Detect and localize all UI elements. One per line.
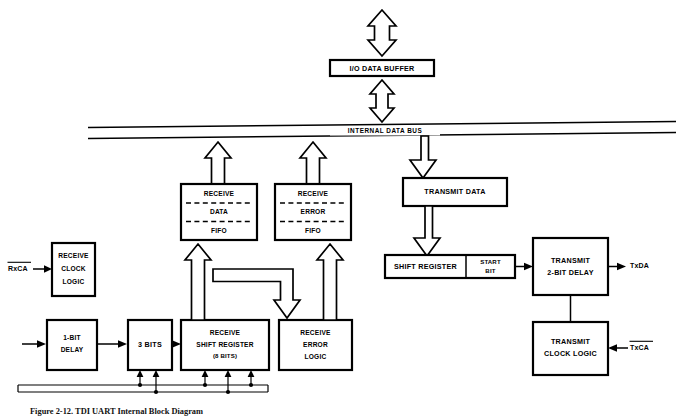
block-receive-error-logic: RECEIVE ERROR LOGIC	[279, 320, 352, 370]
block-receive-shift-register: RECEIVE SHIFT REGISTER (8 BITS)	[181, 320, 269, 370]
receive-shift-register-line2: SHIFT REGISTER	[196, 341, 253, 348]
receive-data-input-arrow	[22, 340, 46, 348]
pin-txda: TxDA	[608, 262, 649, 270]
error-logic-to-error-fifo-arrow	[317, 244, 343, 320]
receive-error-logic-line1: RECEIVE	[300, 329, 331, 336]
transmit-data-to-shift-register-arrow	[414, 206, 440, 256]
block-transmit-data: TRANSMIT DATA	[403, 178, 507, 206]
receive-shift-register-line3: (8 BITS)	[213, 352, 237, 359]
block-receive-data-fifo: RECEIVE DATA FIFO	[181, 184, 257, 240]
receive-clock-logic-line1: RECEIVE	[58, 252, 89, 259]
transmit-data-label: TRANSMIT DATA	[424, 187, 485, 196]
block-three-bits: 3 BITS	[128, 320, 172, 370]
receive-error-fifo-line3: FIFO	[305, 227, 321, 234]
shift-register-to-error-logic-arrow	[213, 269, 300, 318]
start-bit-line2: BIT	[485, 267, 495, 274]
delay-to-3bits-wire	[97, 340, 127, 348]
internal-data-bus: INTERNAL DATA BUS	[88, 122, 676, 139]
rxca-arrowhead	[44, 265, 52, 273]
receive-error-logic-line2: ERROR	[303, 341, 328, 348]
receive-data-fifo-line2: DATA	[210, 208, 228, 215]
shift-register-label: SHIFT REGISTER	[394, 262, 458, 271]
block-diagram-canvas: I/O DATA BUFFER INTERNAL DATA BUS RECEIV…	[0, 0, 676, 416]
io-buffer-to-bus-arrow	[370, 80, 394, 122]
block-transmit-clock-logic: TRANSMIT CLOCK LOGIC	[533, 322, 608, 375]
transmit-clock-logic-line2: CLOCK LOGIC	[544, 349, 597, 358]
txda-label: TxDA	[630, 262, 649, 269]
receive-clock-logic-line3: LOGIC	[63, 278, 85, 285]
block-one-bit-delay: 1-BIT DELAY	[47, 320, 97, 370]
rxca-label: RxCA	[8, 265, 28, 272]
pin-txca: TxCA	[608, 341, 653, 352]
bus-to-transmit-data-arrow	[410, 136, 436, 178]
receive-error-logic-line3: LOGIC	[305, 353, 327, 360]
io-data-buffer-label: I/O DATA BUFFER	[349, 64, 415, 73]
receive-data-fifo-to-bus-arrow	[205, 142, 231, 184]
start-bit-line1: START	[480, 258, 501, 265]
one-bit-delay-line2: DELAY	[61, 346, 84, 353]
receive-data-fifo-line1: RECEIVE	[204, 190, 235, 197]
receive-error-fifo-to-bus-arrow	[300, 142, 326, 184]
shift-register-to-delay-wire	[515, 263, 533, 271]
external-bus-arrow-top	[368, 10, 396, 56]
receive-shift-register-line1: RECEIVE	[210, 329, 241, 336]
one-bit-delay-line1: 1-BIT	[63, 334, 80, 341]
shift-register-to-data-fifo-arrow	[185, 244, 211, 320]
receive-clock-feedback-bus	[18, 370, 268, 394]
internal-data-bus-label: INTERNAL DATA BUS	[348, 127, 423, 134]
transmit-2bit-delay-line1: TRANSMIT	[551, 256, 590, 265]
uart-block-diagram: I/O DATA BUFFER INTERNAL DATA BUS RECEIV…	[0, 0, 676, 416]
receive-error-fifo-line2: ERROR	[301, 208, 326, 215]
transmit-clock-logic-line1: TRANSMIT	[551, 337, 590, 346]
block-transmit-shift-register: SHIFT REGISTER START BIT	[385, 255, 515, 278]
block-io-data-buffer: I/O DATA BUFFER	[330, 60, 434, 76]
transmit-2bit-delay-line2: 2-BIT DELAY	[547, 268, 593, 277]
receive-error-fifo-line1: RECEIVE	[298, 190, 329, 197]
block-transmit-2bit-delay: TRANSMIT 2-BIT DELAY	[533, 238, 608, 295]
receive-clock-logic-line2: CLOCK	[61, 265, 85, 272]
txca-label: TxCA	[630, 344, 649, 351]
receive-data-fifo-line3: FIFO	[211, 227, 227, 234]
figure-caption: Figure 2-12. TDI UART Internal Block Dia…	[30, 407, 203, 416]
block-receive-clock-logic: RECEIVE CLOCK LOGIC	[52, 243, 95, 296]
3bits-to-shift-register-wire	[172, 340, 181, 348]
three-bits-label: 3 BITS	[138, 340, 162, 349]
pin-rxca: RxCA	[8, 262, 53, 273]
block-receive-error-fifo: RECEIVE ERROR FIFO	[275, 184, 351, 240]
